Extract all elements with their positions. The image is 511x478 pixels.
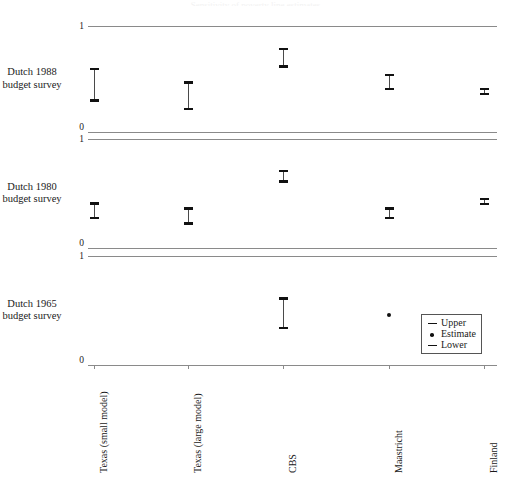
y-tick-label-top: 1 (70, 21, 84, 31)
cropped-title-fragment: Sensitivity of poverty line estimates (0, 0, 511, 6)
x-axis-tick (94, 365, 95, 369)
legend-entry-upper: Upper (426, 317, 476, 328)
error-bar-cap-lower (279, 327, 288, 329)
error-bar-cap-lower (90, 217, 99, 219)
legend-entry-label: Upper (441, 317, 466, 328)
legend-entry-estimate: Estimate (426, 328, 476, 339)
error-bar-cap-lower (279, 65, 288, 67)
error-bar (279, 297, 288, 329)
legend: UpperEstimateLower (421, 314, 482, 354)
error-bar (480, 198, 489, 205)
legend-entry-lower: Lower (426, 339, 476, 350)
error-bar-cap-upper (184, 207, 193, 209)
panel-top-rule (88, 256, 497, 257)
x-axis-label-finland: Finland (488, 442, 499, 473)
x-axis-label-cbs: CBS (287, 454, 298, 473)
x-axis-label-texas-small-model: Texas (small model) (98, 392, 109, 474)
error-bar-cap-lower (385, 88, 394, 90)
error-bar-cap-upper (480, 198, 489, 200)
error-bar-stem (94, 68, 95, 102)
panel-top-rule (88, 26, 497, 27)
panel-top-rule (88, 139, 497, 140)
panel-bottom-rule (88, 365, 497, 366)
error-bar-cap-lower (184, 222, 193, 224)
legend-key-dash-icon (426, 317, 438, 328)
range-dash-icon (428, 323, 437, 324)
x-axis-tick (389, 365, 390, 369)
error-bar-cap-lower (90, 99, 99, 101)
legend-entry-label: Lower (441, 339, 467, 350)
error-bar (480, 88, 489, 95)
error-bar-cap-upper (184, 81, 193, 83)
legend-key-dash-icon (426, 339, 438, 350)
error-bar (385, 74, 394, 90)
x-axis-label-maastricht: Maastricht (393, 430, 404, 473)
error-bar (279, 170, 288, 183)
error-bar-cap-lower (184, 108, 193, 110)
error-bar (385, 207, 394, 219)
error-bar-cap-upper (279, 170, 288, 172)
error-bar-stem (283, 297, 284, 329)
range-dash-icon (428, 345, 437, 346)
error-bar (90, 68, 99, 102)
x-axis-tick (283, 365, 284, 369)
panel-row-label-3: Dutch 1965budget survey (0, 298, 82, 323)
error-bar-cap-upper (90, 202, 99, 204)
error-bar-cap-upper (480, 88, 489, 90)
error-bar-cap-upper (279, 48, 288, 50)
x-axis-label-texas-large-model: Texas (large model) (192, 393, 203, 473)
x-axis-tick (188, 365, 189, 369)
panel-bottom-rule (88, 132, 497, 133)
error-bar-cap-upper (385, 74, 394, 76)
y-tick-label-bottom: 0 (70, 238, 84, 248)
y-tick-label-top: 1 (70, 251, 84, 261)
error-bar-cap-upper (385, 207, 394, 209)
legend-key-dot-icon (426, 328, 438, 339)
x-axis-tick (484, 365, 485, 369)
y-tick-label-bottom: 0 (70, 355, 84, 365)
panel-row-label-2: Dutch 1980budget survey (0, 181, 82, 206)
panel-bottom-rule (88, 248, 497, 249)
error-bar (90, 202, 99, 219)
error-bar-cap-lower (480, 93, 489, 95)
error-bar-cap-upper (90, 68, 99, 70)
panel-row-label-1: Dutch 1988budget survey (0, 66, 82, 91)
error-bar-stem (188, 81, 189, 110)
y-tick-label-top: 1 (70, 134, 84, 144)
error-bar (279, 48, 288, 68)
estimate-dot (387, 313, 391, 317)
error-bar (184, 207, 193, 224)
figure-canvas: Sensitivity of poverty line estimates 10… (0, 0, 511, 478)
error-bar (184, 81, 193, 110)
error-bar-cap-lower (385, 217, 394, 219)
error-bar-cap-lower (279, 180, 288, 182)
error-bar-cap-lower (480, 203, 489, 205)
estimate-dot-icon (430, 333, 434, 337)
y-tick-label-bottom: 0 (70, 122, 84, 132)
legend-entry-label: Estimate (441, 328, 476, 339)
error-bar-cap-upper (279, 297, 288, 299)
